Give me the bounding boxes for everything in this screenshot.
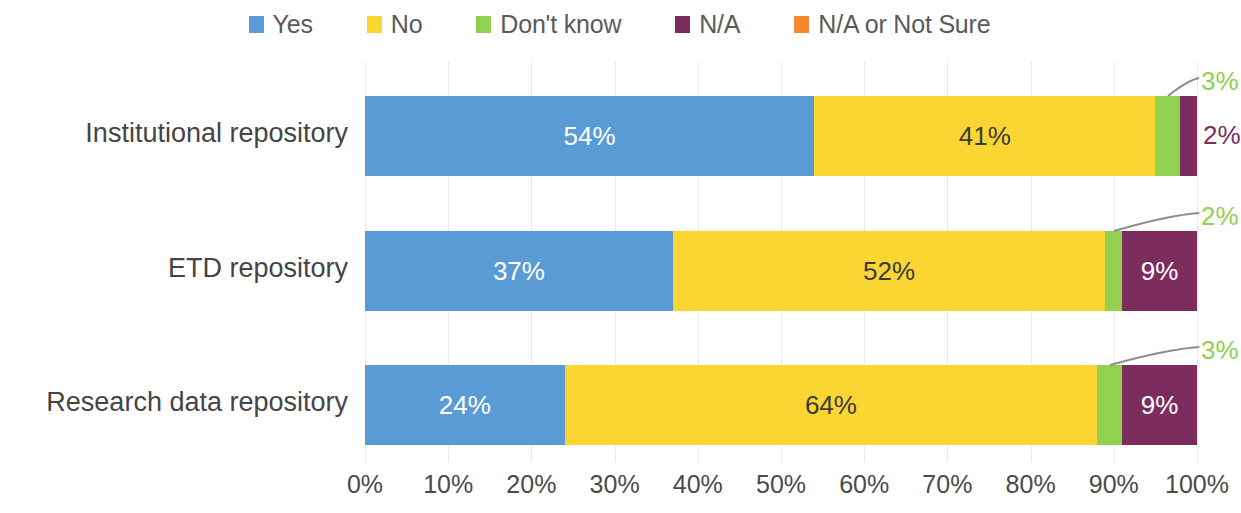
category-label: Research data repository	[0, 387, 348, 418]
legend-item[interactable]: N/A or Not Sure	[794, 10, 990, 39]
chart-legend: YesNoDon't knowN/AN/A or Not Sure	[0, 4, 1239, 44]
legend-item[interactable]: No	[367, 10, 423, 39]
x-axis-tick-label: 90%	[1089, 470, 1139, 499]
x-axis-tick-label: 20%	[506, 470, 556, 499]
callout-leader-line	[1112, 211, 1201, 233]
legend-item-label: Yes	[273, 10, 313, 39]
legend-item-label: No	[391, 10, 423, 39]
bar-row: 37%52%9%	[365, 231, 1197, 311]
bar-segment-label: 9%	[1141, 258, 1179, 284]
bar-segment[interactable]: 37%	[365, 231, 673, 311]
bar-segment-callout-label: 2%	[1201, 203, 1239, 229]
legend-swatch-icon	[367, 16, 382, 33]
x-axis-tick-label: 80%	[1006, 470, 1056, 499]
x-axis-tick-label: 100%	[1165, 470, 1229, 499]
category-label: ETD repository	[0, 253, 348, 284]
bar-segment[interactable]	[1155, 96, 1180, 176]
bar-segment-label: 64%	[805, 392, 857, 418]
legend-item[interactable]: Yes	[249, 10, 313, 39]
legend-swatch-icon	[794, 16, 809, 33]
bar-row: 54%41%	[365, 96, 1197, 176]
plot-area: 54%41%3%2%37%52%9%2%24%64%9%3%	[365, 62, 1197, 462]
bar-segment-label: 41%	[959, 123, 1011, 149]
x-axis-tick-label: 10%	[423, 470, 473, 499]
x-axis-tick-label: 30%	[590, 470, 640, 499]
bar-segment-callout-label: 2%	[1203, 122, 1241, 148]
x-axis-tick-label: 40%	[673, 470, 723, 499]
bar-segment-label: 52%	[863, 258, 915, 284]
bar-segment-callout-label: 3%	[1201, 68, 1239, 94]
x-axis-tick-label: 0%	[347, 470, 383, 499]
callout-leader-line	[1166, 76, 1201, 98]
bar-segment-label: 54%	[564, 123, 616, 149]
category-label: Institutional repository	[0, 118, 348, 149]
bar-segment[interactable]: 9%	[1122, 365, 1197, 445]
bar-segment[interactable]	[1180, 96, 1197, 176]
bar-segment[interactable]: 54%	[365, 96, 814, 176]
x-axis-tick-label: 50%	[756, 470, 806, 499]
bar-segment[interactable]: 9%	[1122, 231, 1197, 311]
x-axis-tick-label: 70%	[922, 470, 972, 499]
legend-swatch-icon	[476, 16, 491, 33]
legend-item-label: N/A	[699, 10, 740, 39]
bar-segment[interactable]	[1097, 365, 1122, 445]
bar-segment[interactable]: 52%	[673, 231, 1106, 311]
callout-leader-line	[1108, 345, 1201, 367]
bar-segment[interactable]: 41%	[814, 96, 1155, 176]
gridline	[1197, 62, 1198, 462]
bar-segment-callout-label: 3%	[1201, 337, 1239, 363]
bar-segment[interactable]: 64%	[565, 365, 1097, 445]
bar-segment[interactable]	[1105, 231, 1122, 311]
legend-item-label: Don't know	[500, 10, 621, 39]
x-axis: 0%10%20%30%40%50%60%70%80%90%100%	[365, 470, 1197, 510]
bar-segment[interactable]: 24%	[365, 365, 565, 445]
legend-item-label: N/A or Not Sure	[818, 10, 990, 39]
bar-row: 24%64%9%	[365, 365, 1197, 445]
bar-segment-label: 24%	[439, 392, 491, 418]
bar-segment-label: 37%	[493, 258, 545, 284]
legend-item[interactable]: Don't know	[476, 10, 621, 39]
x-axis-tick-label: 60%	[839, 470, 889, 499]
bar-segment-label: 9%	[1141, 392, 1179, 418]
legend-swatch-icon	[675, 16, 690, 33]
legend-swatch-icon	[249, 16, 264, 33]
legend-item[interactable]: N/A	[675, 10, 740, 39]
